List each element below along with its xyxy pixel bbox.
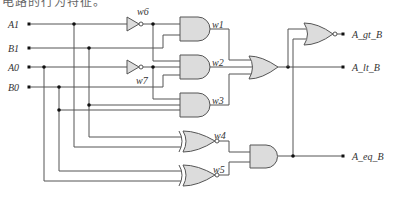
xnor-gate-w4 [183, 131, 215, 152]
inversion-bubble-nor [333, 32, 337, 36]
wire-label-w1: w1 [212, 19, 224, 30]
wire-b0-tap [59, 87, 181, 171]
wire-b1 [30, 35, 180, 48]
wire-label-w4: w4 [214, 130, 226, 141]
inversion-bubble-w6 [139, 22, 143, 26]
junction-b1 [87, 46, 91, 50]
or-gate-lt [249, 56, 278, 79]
wire-label-w6: w6 [137, 6, 149, 17]
not-gate-w6 [127, 17, 139, 31]
wire-a1-tap [74, 24, 181, 147]
input-label-b0: B0 [8, 82, 19, 93]
wire-w7-to-w3 [153, 67, 180, 99]
output-terminal-eq [342, 155, 345, 158]
and-gate-w3 [180, 93, 210, 117]
junction-w6 [151, 22, 155, 26]
input-label-a0: A0 [7, 62, 19, 73]
wire-a0-tap [44, 67, 181, 181]
not-gate-w7 [127, 60, 139, 74]
inversion-bubble-w7 [139, 65, 143, 69]
junction-b0-w3 [57, 108, 61, 112]
wire-w1 [210, 29, 252, 60]
wire-b0 [30, 75, 180, 87]
xnor-gate-w5 [183, 165, 215, 186]
wire-w4 [219, 141, 250, 152]
wire-lt-to-nor [288, 29, 306, 67]
junction-w7 [151, 65, 155, 69]
junction-b0 [57, 85, 61, 89]
comparator-circuit-diagram: A1 B1 A0 B0 w6 w7 w1 w2 w3 [0, 0, 395, 199]
junction-a0 [42, 65, 46, 69]
input-label-a1: A1 [7, 19, 19, 30]
xnor-extra-arc-w5 [179, 165, 182, 186]
wire-label-w7: w7 [136, 75, 149, 86]
junction-b1-w3 [87, 103, 91, 107]
output-label-lt: A_lt_B [351, 62, 380, 73]
wire-eq-to-nor [293, 39, 306, 156]
and-gate-w2 [180, 55, 210, 79]
wire-label-w2: w2 [212, 57, 224, 68]
wire-label-w5: w5 [213, 164, 225, 175]
and-gate-eq [250, 145, 278, 168]
output-terminal-gt [342, 33, 345, 36]
output-label-eq: A_eq_B [351, 151, 384, 162]
and-gate-w1 [180, 17, 210, 41]
junction-a1 [72, 22, 76, 26]
xnor-extra-arc-w4 [179, 131, 182, 152]
junction-eq [291, 154, 295, 158]
wire-label-w3: w3 [212, 95, 224, 106]
output-terminal-lt [342, 66, 345, 69]
nor-gate-gt [304, 23, 333, 45]
input-label-b1: B1 [8, 43, 19, 54]
output-label-gt: A_gt_B [351, 29, 382, 40]
wire-w6-to-w2 [153, 24, 180, 61]
